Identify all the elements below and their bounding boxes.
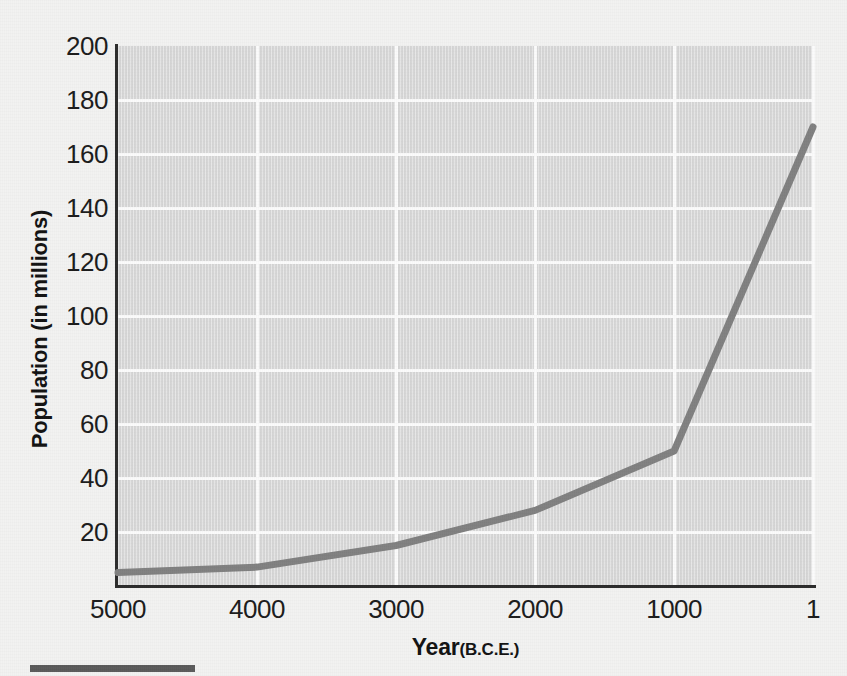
y-tick-label: 160	[8, 141, 108, 167]
x-tick-label: 3000	[368, 596, 424, 622]
y-tick-label: 80	[8, 357, 108, 383]
y-axis-title: Population (in millions)	[27, 119, 53, 539]
y-tick-label: 60	[8, 411, 108, 437]
y-tick-label: 120	[8, 249, 108, 275]
y-tick-label: 180	[8, 87, 108, 113]
x-tick-label: 1000	[646, 596, 702, 622]
y-tick-label: 200	[8, 33, 108, 59]
y-tick-label: 40	[8, 465, 108, 491]
y-tick-label: 140	[8, 195, 108, 221]
x-axis-title-sub: (B.C.E.)	[460, 640, 520, 659]
population-growth-chart: 20406080100120140160180200 5000400030002…	[0, 0, 847, 676]
caption-bar-fragment	[30, 665, 195, 672]
x-axis-title-main: Year	[412, 634, 460, 660]
x-tick-label: 4000	[229, 596, 285, 622]
y-tick-label: 100	[8, 303, 108, 329]
x-axis-title: Year(B.C.E.)	[118, 634, 813, 661]
x-tick-label: 2000	[507, 596, 563, 622]
y-tick-label: 20	[8, 519, 108, 545]
y-axis-tick-labels: 20406080100120140160180200	[0, 0, 108, 676]
x-tick-label: 1	[806, 596, 820, 622]
population-line-series	[118, 46, 813, 586]
x-tick-label: 5000	[90, 596, 146, 622]
population-line-path	[118, 127, 813, 573]
